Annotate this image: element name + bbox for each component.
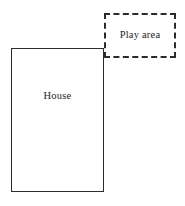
diagram-canvas: House Play area xyxy=(0,0,185,206)
play-area-rectangle: Play area xyxy=(104,13,176,58)
house-label: House xyxy=(44,91,72,102)
shared-edge-line xyxy=(103,48,104,58)
play-area-label: Play area xyxy=(120,30,161,41)
house-rectangle: House xyxy=(11,48,104,192)
